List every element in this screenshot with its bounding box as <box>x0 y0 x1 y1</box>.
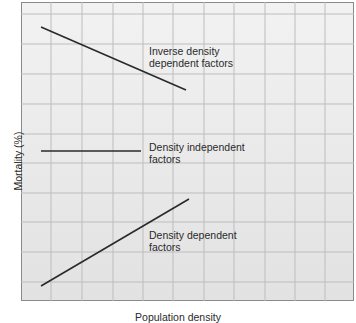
annotation-inverse-density: Inverse density dependent factors <box>149 45 233 69</box>
annotation-line: factors <box>149 153 245 165</box>
annotation-line: factors <box>149 241 237 253</box>
x-axis-label: Population density <box>0 311 356 323</box>
annotation-line: Density dependent <box>149 229 237 241</box>
annotation-line: Inverse density <box>149 45 233 57</box>
y-axis-label: Mortality (%) <box>12 121 24 201</box>
annotation-line: Density independent <box>149 141 245 153</box>
annotation-line: dependent factors <box>149 57 233 69</box>
annotation-density-dependent: Density dependent factors <box>149 229 237 253</box>
annotation-density-independent: Density independent factors <box>149 141 245 165</box>
